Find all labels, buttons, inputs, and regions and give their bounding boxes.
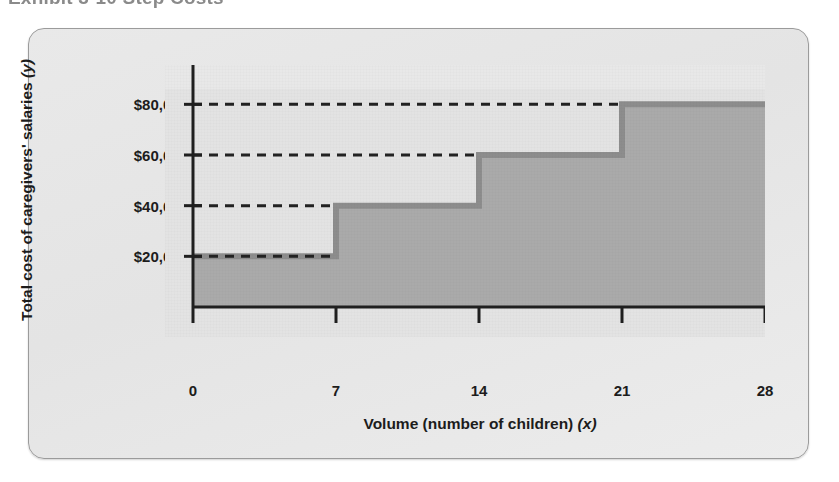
step-chart-svg — [165, 65, 765, 337]
y-axis-title-variable: (y) — [18, 59, 35, 78]
x-axis-title-variable: (x) — [578, 415, 597, 432]
x-tick-label: 14 — [449, 382, 509, 399]
x-axis-title-main: Volume (number of children) — [363, 415, 573, 432]
x-tick-label: 21 — [592, 382, 652, 399]
x-tick-label: 0 — [163, 382, 223, 399]
plot-area — [165, 65, 765, 337]
x-tick-label-group: 07142128 — [0, 382, 839, 404]
x-tick-label: 7 — [306, 382, 366, 399]
y-axis-title: Total cost of caregivers' salaries (y) — [18, 45, 36, 335]
x-axis-title: Volume (number of children) (x) — [180, 415, 780, 433]
figure-title-strip: Exhibit 3-10 Step Costs — [0, 0, 380, 16]
y-axis-title-main: Total cost of caregivers' salaries — [18, 82, 35, 321]
plot-upper-band — [165, 65, 765, 89]
x-tick-label: 28 — [735, 382, 795, 399]
